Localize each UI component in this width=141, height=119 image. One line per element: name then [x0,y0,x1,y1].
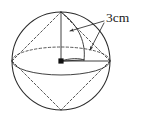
sphere-centre-point [58,58,63,63]
upper-cone-left-edge [12,12,61,61]
sphere-diagram-canvas: 3cm [0,0,141,119]
upper-cone-right-edge [61,12,110,61]
lower-cone-right-edge [61,61,110,110]
lower-cone-left-edge [12,61,61,110]
sphere-diagram: 3cm [0,0,141,119]
radius-dimension-label: 3cm [106,10,130,25]
meridian-arc-right [61,12,84,60]
